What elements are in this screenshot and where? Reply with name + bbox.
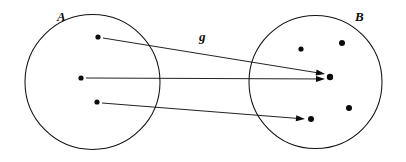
set-function-figure: A B g <box>0 0 406 162</box>
mapping-label-g: g <box>198 29 206 44</box>
element-dot-b3 <box>327 74 333 80</box>
arrow-a3-b5-line <box>102 103 298 118</box>
mapping-arrows-group <box>86 38 325 121</box>
set-a-elements <box>78 34 100 104</box>
element-dot-b1 <box>298 46 303 51</box>
element-dot-b4 <box>346 105 352 111</box>
set-b-label: B <box>354 9 364 24</box>
arrow-a1-b3-line <box>103 38 318 73</box>
arrow-a3-b5-head <box>296 115 305 121</box>
set-b-circle <box>249 16 382 149</box>
arrow-a1-b3-head <box>316 70 325 76</box>
arrow-a2-b3-line <box>86 78 318 79</box>
arrow-a1-b3 <box>103 38 325 76</box>
element-dot-b2 <box>339 40 345 46</box>
set-a-group: A <box>25 9 160 150</box>
element-dot-a2 <box>78 75 83 80</box>
set-b-elements <box>298 40 352 122</box>
set-a-circle <box>25 15 160 150</box>
set-a-label: A <box>56 9 66 24</box>
figure-canvas: A B g <box>0 0 406 162</box>
arrow-a3-b5 <box>102 103 305 121</box>
arrow-a2-b3-head <box>316 76 325 82</box>
element-dot-a1 <box>95 34 100 39</box>
arrow-a2-b3 <box>86 76 325 82</box>
element-dot-b5 <box>308 116 314 122</box>
element-dot-a3 <box>94 99 99 104</box>
